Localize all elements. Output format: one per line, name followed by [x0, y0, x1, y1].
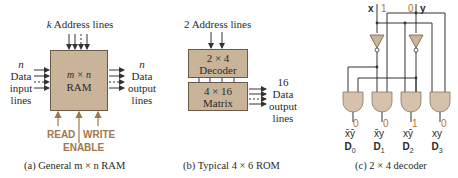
ram-output-arrows [109, 70, 124, 88]
inverter-y [409, 35, 423, 52]
rom-wires [199, 32, 266, 104]
ram-address-arrows [69, 34, 87, 49]
and-gates [343, 92, 450, 112]
diagram-wiring [0, 0, 458, 178]
ram-control-arrows [58, 112, 98, 143]
ram-input-arrows [34, 70, 49, 88]
inverter-x [370, 35, 384, 52]
decoder-junctions [376, 12, 418, 80]
